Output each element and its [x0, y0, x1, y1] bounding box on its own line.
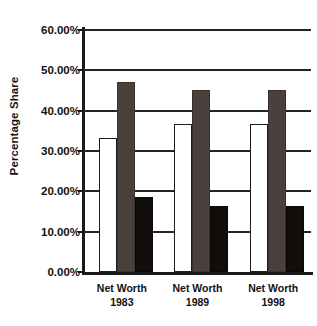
y-axis-tick-label: 10.00%	[22, 226, 80, 238]
x-axis-category-label-line1: Net Worth	[173, 282, 223, 294]
bar-groups	[84, 30, 311, 272]
y-axis-tick-label: 50.00%	[22, 64, 80, 76]
x-axis-category-label: Net Worth1989	[160, 281, 236, 309]
bar-group	[235, 30, 311, 272]
x-axis-category-label: Net Worth1998	[235, 281, 311, 309]
y-axis-tick-label: 30.00%	[22, 145, 80, 157]
bar	[135, 197, 153, 272]
bar-group	[160, 30, 236, 272]
bar-group	[84, 30, 160, 272]
bar	[117, 82, 135, 272]
y-axis-tick-label: 60.00%	[22, 24, 80, 36]
chart-page: Percentage Share 0.00%10.00%20.00%30.00%…	[0, 0, 317, 326]
x-axis-category-label-line2: 1998	[235, 295, 311, 309]
x-axis-category-label-line1: Net Worth	[248, 282, 298, 294]
x-axis-category-label-line2: 1983	[84, 295, 160, 309]
y-axis-title-container: Percentage Share	[0, 0, 22, 280]
bar	[210, 206, 228, 272]
y-axis-tick-label: 0.00%	[22, 266, 80, 278]
x-axis-category-label-line1: Net Worth	[97, 282, 147, 294]
x-axis-category-label: Net Worth1983	[84, 281, 160, 309]
bar	[192, 90, 210, 272]
y-axis-tick-label: 20.00%	[22, 185, 80, 197]
y-axis-tick-label: 40.00%	[22, 105, 80, 117]
bar	[286, 206, 304, 272]
bar	[268, 90, 286, 272]
x-axis-category-labels: Net Worth1983Net Worth1989Net Worth1998	[84, 281, 311, 323]
plot-area	[84, 30, 311, 272]
y-axis-title: Percentage Share	[8, 46, 20, 206]
bar	[174, 124, 192, 272]
bar	[99, 138, 117, 272]
y-axis-tick-labels: 0.00%10.00%20.00%30.00%40.00%50.00%60.00…	[22, 0, 84, 300]
x-axis-category-label-line2: 1989	[160, 295, 236, 309]
bar	[250, 124, 268, 272]
x-axis-line	[82, 272, 313, 275]
